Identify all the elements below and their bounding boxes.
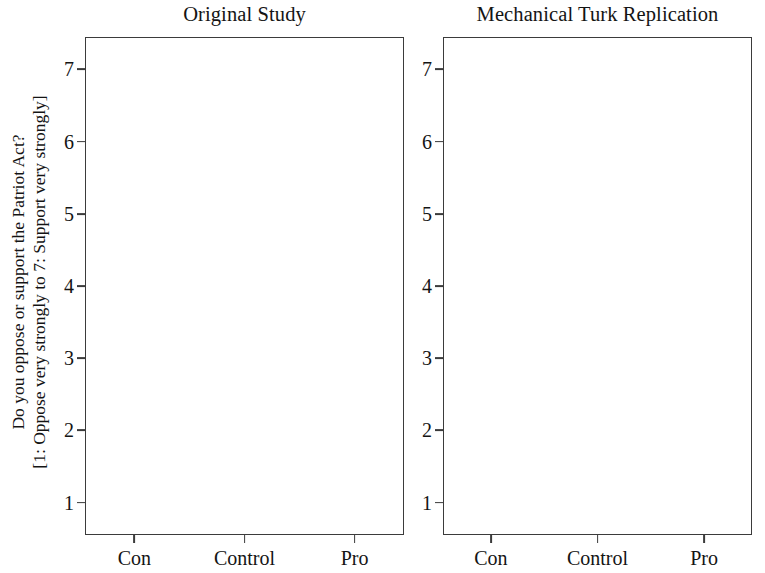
y-tick-label: 7 [422, 58, 443, 81]
x-tick-mark [597, 535, 599, 543]
y-tick-label: 1 [422, 491, 443, 514]
x-tick-mark [244, 535, 246, 543]
y-tick-label: 3 [64, 347, 85, 370]
panel-title: Mechanical Turk Replication [443, 3, 752, 26]
figure-root: Do you oppose or support the Patriot Act… [0, 0, 765, 573]
y-tick-label: 2 [64, 419, 85, 442]
y-tick-label: 4 [64, 275, 85, 298]
y-tick-label: 2 [422, 419, 443, 442]
x-tick-mark [134, 535, 136, 543]
y-tick-label: 7 [64, 58, 85, 81]
y-axis-title-line-1: Do you oppose or support the Patriot Act… [8, 134, 29, 429]
y-tick-label: 4 [422, 275, 443, 298]
y-axis-title: Do you oppose or support the Patriot Act… [0, 0, 52, 573]
plot-frame [443, 37, 752, 535]
panel-original-study: Original Study RepublicansDemocrats 1234… [85, 37, 404, 535]
y-tick-label: 3 [422, 347, 443, 370]
plot-frame [85, 37, 404, 535]
y-tick-label: 1 [64, 491, 85, 514]
x-tick-mark [490, 535, 492, 543]
x-tick-mark [703, 535, 705, 543]
y-tick-label: 6 [64, 130, 85, 153]
panel-title: Original Study [85, 3, 404, 26]
panel-mechanical-turk-replication: Mechanical Turk Replication 1234567ConCo… [443, 37, 752, 535]
x-tick-label: Con [118, 547, 151, 570]
x-tick-label: Pro [341, 547, 369, 570]
x-tick-label: Control [567, 547, 628, 570]
y-tick-label: 5 [422, 202, 443, 225]
x-tick-label: Pro [690, 547, 718, 570]
y-tick-label: 6 [422, 130, 443, 153]
x-tick-mark [354, 535, 356, 543]
y-tick-label: 5 [64, 202, 85, 225]
x-tick-label: Con [474, 547, 507, 570]
x-tick-label: Control [214, 547, 275, 570]
y-axis-title-line-2: [1: Oppose very strongly to 7: Support v… [29, 95, 50, 468]
